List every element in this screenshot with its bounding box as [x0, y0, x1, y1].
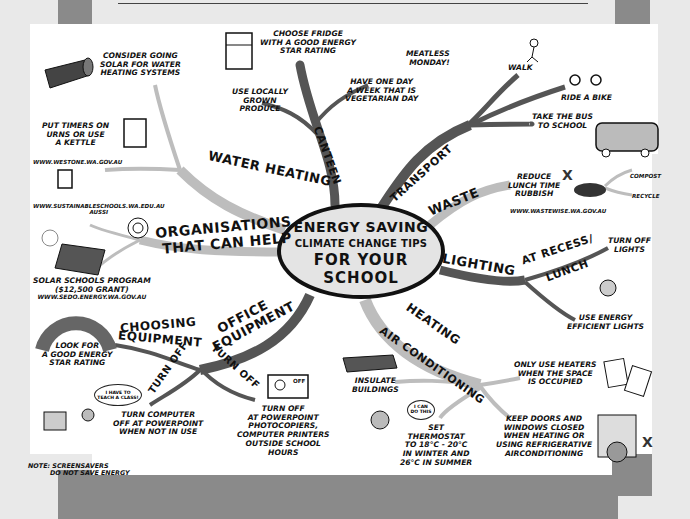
target-icon: [128, 218, 148, 238]
switch-off-label: OFF: [293, 378, 305, 384]
sun-icon: [42, 230, 58, 246]
tip-doors-windows: KEEP DOORS AND WINDOWS CLOSED WHEN HEATI…: [496, 415, 592, 459]
option-recycle: RECYCLE: [632, 193, 660, 199]
speech-bubble-i-can: I CAN DO THIS: [407, 400, 435, 420]
url-wastewise: WWW.WASTEWISE.WA.GOV.AU: [510, 208, 606, 214]
tip-line: STAR RATING: [42, 359, 113, 368]
insulation-icon: [343, 355, 397, 372]
center-title-line2: CLIMATE CHANGE TIPS: [281, 238, 441, 249]
thermostat-person-icon: [371, 411, 389, 429]
center-title-line3: FOR YOUR: [281, 251, 441, 269]
tip-line: IS OCCUPIED: [514, 378, 596, 387]
rubbish-pile-icon: [574, 183, 606, 197]
tip-heaters: ONLY USE HEATERS WHEN THE SPACE IS OCCUP…: [514, 361, 596, 387]
tip-line: RUBBISH: [508, 190, 560, 199]
tip-line: MONDAY!: [406, 59, 450, 68]
center-title-ellipse: ENERGY SAVING CLIMATE CHANGE TIPS FOR YO…: [277, 203, 445, 299]
walk-icon: [527, 39, 538, 62]
speech-bubble-teach-class: I HAVE TO TEACH A CLASS!: [94, 384, 142, 406]
center-title-line4: SCHOOL: [281, 269, 441, 287]
tip-meatless: MEATLESS MONDAY!: [406, 50, 450, 67]
tip-line: AIRCONDITIONING: [496, 450, 592, 459]
note-line: DO NOT SAVE ENERGY: [28, 470, 130, 477]
option-compost: COMPOST: [630, 173, 661, 179]
tip-fridge: CHOOSE FRIDGE WITH A GOOD ENERGY STAR RA…: [260, 30, 356, 56]
tip-efficient-lights: USE ENERGY EFFICIENT LIGHTS: [567, 314, 644, 331]
tip-turn-off-lights: TURN OFF LIGHTS: [608, 237, 651, 254]
aussi-label: AUSSI: [33, 209, 165, 215]
door-x-mark: X: [642, 434, 653, 450]
tip-insulate: INSULATE BUILDINGS: [352, 377, 399, 394]
tip-line: HEATING SYSTEMS: [100, 69, 181, 78]
tip-bus: TAKE THE BUS TO SCHOOL: [532, 113, 593, 130]
tip-thermostat: SET THERMOSTAT TO 18°C - 20°C IN WINTER …: [400, 424, 472, 468]
bus-icon: [596, 123, 658, 157]
tip-line: BUILDINGS: [352, 386, 399, 395]
tip-walk: WALK: [508, 64, 533, 73]
solar-roll-icon: [45, 58, 93, 88]
tip-ride-bike: RIDE A BIKE: [561, 94, 612, 103]
waste-x-mark: X: [562, 167, 573, 183]
solar-panel-icon: [55, 244, 105, 275]
tip-line: STAR RATING: [260, 47, 356, 56]
bubble-line: TEACH A CLASS!: [95, 395, 141, 400]
tip-line: PRODUCE: [232, 105, 288, 114]
tip-line: WWW.SEDO.ENERGY.WA.GOV.AU: [33, 294, 151, 301]
tip-line: VEGETARIAN DAY: [345, 95, 418, 104]
tip-solar-water: CONSIDER GOING SOLAR FOR WATER HEATING S…: [100, 52, 181, 78]
tip-line: LIGHTS: [608, 246, 651, 255]
center-title-line1: ENERGY SAVING: [281, 219, 441, 235]
tip-reduce-rubbish: REDUCE LUNCH TIME RUBBISH: [508, 173, 560, 199]
tip-local-produce: USE LOCALLY GROWN PRODUCE: [232, 88, 288, 114]
bike-icon: [570, 75, 601, 85]
tip-line: HOURS: [237, 449, 329, 458]
kettle-icon: [58, 170, 72, 188]
tip-powerpoint-off: TURN OFF AT POWERPOINT PHOTOCOPIERS, COM…: [237, 405, 329, 457]
url-westone: WWW.WESTONE.WA.GOV.AU: [33, 159, 122, 165]
tip-line: A KETTLE: [42, 139, 109, 148]
open-door-icon: [598, 415, 636, 462]
tip-line: WHEN NOT IN USE: [113, 428, 203, 437]
tip-veg-day: HAVE ONE DAY A WEEK THAT IS VEGETARIAN D…: [345, 78, 418, 104]
tip-solar-schools: SOLAR SCHOOLS PROGRAM ($12,500 GRANT) WW…: [33, 277, 151, 301]
light-bulb-person-icon: [600, 280, 616, 296]
tip-look-for-star: LOOK FOR A GOOD ENERGY STAR RATING: [42, 342, 113, 368]
power-bill-icon: [604, 358, 652, 396]
bubble-line: DO THIS: [408, 409, 434, 414]
urn-icon: [124, 119, 146, 147]
teacher-icon: [82, 409, 94, 421]
computer-icon: [44, 412, 66, 430]
url-sustainable-schools: WWW.SUSTAINABLESCHOOLS.WA.EDU.AU AUSSI: [33, 203, 165, 216]
tip-line: 26°C IN SUMMER: [400, 459, 472, 468]
fridge-icon: [226, 33, 252, 69]
tip-turn-off-computer: TURN COMPUTER OFF AT POWERPOINT WHEN NOT…: [113, 411, 203, 437]
tip-line: TO SCHOOL: [532, 122, 593, 131]
note-screensavers: NOTE: SCREENSAVERS DO NOT SAVE ENERGY: [28, 463, 130, 478]
tip-line: EFFICIENT LIGHTS: [567, 323, 644, 332]
tip-timers: PUT TIMERS ON URNS OR USE A KETTLE: [42, 122, 109, 148]
